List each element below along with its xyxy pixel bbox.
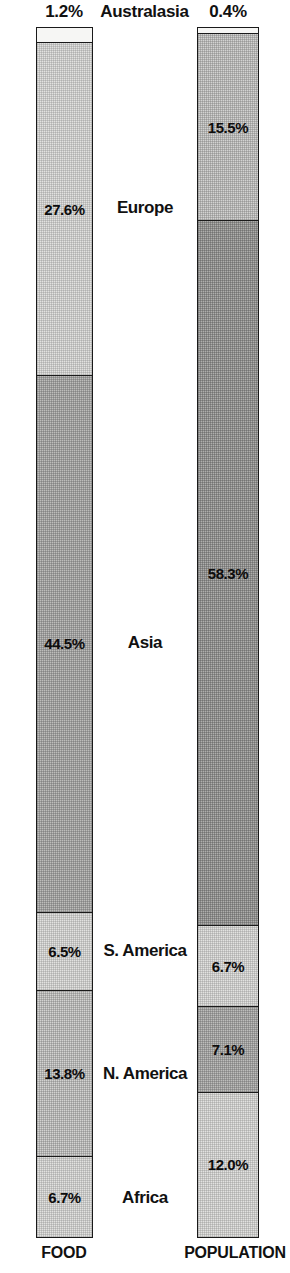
bar-segment-population-africa: 12.0% <box>198 1092 258 1237</box>
bar-segment-population-europe: 15.5% <box>198 33 258 220</box>
category-label-africa: Africa <box>93 1189 197 1207</box>
bar-segment-food-australasia: 1.2% <box>37 28 92 42</box>
category-label-asia: Asia <box>93 634 197 652</box>
segment-value-label: 7.1% <box>212 1042 245 1057</box>
segment-value-label: 13.8% <box>44 1066 85 1081</box>
bar-segment-food-europe: 27.6% <box>37 42 92 375</box>
category-label-s-america: S. America <box>93 942 197 960</box>
bar-segment-population-asia: 58.3% <box>198 220 258 925</box>
bar-segment-food-s-america: 6.5% <box>37 912 92 990</box>
segment-value-label: 15.5% <box>208 120 249 135</box>
population-australasia-value: 0.4% <box>197 2 259 22</box>
bar-population: 0.4%15.5%58.3%6.7%7.1%12.0% <box>197 27 259 1238</box>
segment-value-label: 44.5% <box>44 636 85 651</box>
segment-value-label: 6.5% <box>48 944 81 959</box>
segment-value-label: 6.7% <box>48 1190 81 1205</box>
segment-value-label: 27.6% <box>44 202 85 217</box>
stacked-bar-chart: 1.2% Australasia 0.4% 1.2%27.6%44.5%6.5%… <box>0 0 290 1273</box>
bar-segment-food-asia: 44.5% <box>37 375 92 911</box>
bar-segment-population-s-america: 6.7% <box>198 925 258 1006</box>
segment-value-label: 12.0% <box>208 1157 249 1172</box>
segment-value-label: 6.7% <box>212 959 245 974</box>
axis-caption-population: POPULATION <box>180 1244 290 1262</box>
food-australasia-value: 1.2% <box>36 2 92 22</box>
bar-segment-food-africa: 6.7% <box>37 1156 92 1237</box>
bar-food: 1.2%27.6%44.5%6.5%13.8%6.7% <box>36 27 93 1238</box>
axis-caption-food: FOOD <box>24 1244 104 1262</box>
segment-value-label: 58.3% <box>208 566 249 581</box>
chart-top-header: 1.2% Australasia 0.4% <box>0 2 290 24</box>
category-label-n-america: N. America <box>93 1065 197 1083</box>
category-label-column: EuropeAsiaS. AmericaN. AmericaAfrica <box>93 27 197 1238</box>
bar-segment-food-n-america: 13.8% <box>37 990 92 1156</box>
category-label-europe: Europe <box>93 199 197 217</box>
category-label-australasia: Australasia <box>92 2 197 22</box>
bar-segment-population-n-america: 7.1% <box>198 1006 258 1092</box>
